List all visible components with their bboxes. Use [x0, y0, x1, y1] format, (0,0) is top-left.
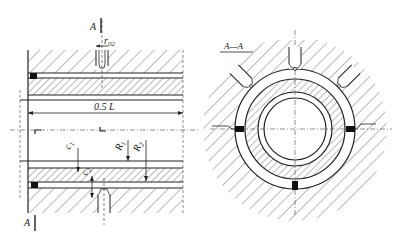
R1-label: R1 [112, 139, 128, 153]
pad-top [30, 73, 37, 79]
pad-right [346, 126, 355, 132]
upper-journal [28, 78, 183, 95]
longitudinal-section: 0.5 L c1 [10, 18, 200, 231]
pad-bottom [292, 181, 298, 190]
c1-label: c1 [62, 139, 77, 151]
lower-journal [28, 168, 183, 182]
R2-label: R2 [130, 139, 146, 154]
length-label: 0.5 L [94, 101, 115, 112]
pad-left [235, 126, 244, 132]
section-marker-bottom: A [23, 217, 31, 228]
section-marker-top: A [89, 21, 97, 32]
section-title: A—A [223, 41, 244, 51]
cross-section-AA: A—A [203, 30, 392, 221]
bearing-diagram: 0.5 L c1 [0, 0, 401, 239]
pad-bottom [31, 182, 38, 188]
